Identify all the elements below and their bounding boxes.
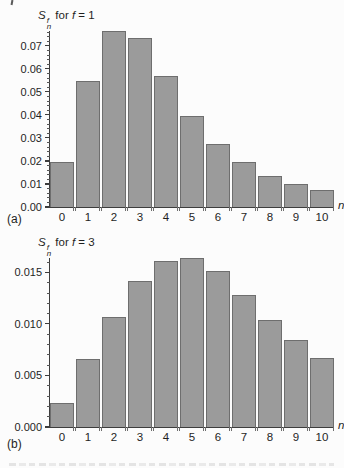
x-tick-label: 8 <box>258 432 282 444</box>
x-tick-label: 4 <box>154 212 178 224</box>
y-minor-tick <box>47 87 50 88</box>
title-text: for <box>52 9 72 21</box>
y-minor-tick <box>47 50 50 51</box>
y-minor-tick <box>47 64 50 65</box>
y-minor-tick <box>47 124 50 125</box>
y-minor-tick <box>47 105 50 106</box>
y-major-tick <box>45 68 50 69</box>
title-sub-sup: fn <box>47 245 51 257</box>
y-minor-tick <box>47 96 50 97</box>
y-minor-tick <box>47 151 50 152</box>
bar-n10 <box>310 358 334 427</box>
y-tick-label: 0.000 <box>14 422 42 433</box>
y-major-tick <box>45 183 50 184</box>
y-tick-label: 0.005 <box>14 370 42 381</box>
bar-n0 <box>50 162 74 207</box>
y-minor-tick <box>47 202 50 203</box>
y-minor-tick <box>47 188 50 189</box>
y-minor-tick <box>47 293 50 294</box>
bar-n3 <box>128 281 152 427</box>
y-tick-label: 0.010 <box>14 318 42 329</box>
x-boundary-tick <box>73 427 76 431</box>
bar-n0 <box>50 403 74 427</box>
y-tick-label: 0.07 <box>21 40 42 51</box>
bar-n2 <box>102 317 126 427</box>
y-minor-tick <box>47 36 50 37</box>
x-boundary-tick <box>151 207 154 211</box>
bar-n9 <box>284 340 308 427</box>
y-minor-tick <box>47 156 50 157</box>
y-minor-tick <box>47 365 50 366</box>
x-boundary-tick <box>229 427 232 431</box>
y-minor-tick <box>47 262 50 263</box>
x-tick-label: 8 <box>258 212 282 224</box>
title-subscript: n <box>47 251 51 257</box>
bar-n4 <box>154 76 178 207</box>
title-value: = 1 <box>75 9 95 21</box>
x-tick-label: 0 <box>50 432 74 444</box>
y-tick-label: 0.03 <box>21 132 42 143</box>
y-minor-tick <box>47 354 50 355</box>
bar-n1 <box>76 81 100 208</box>
x-boundary-tick <box>125 207 128 211</box>
x-boundary-tick <box>307 207 310 211</box>
y-major-tick <box>45 206 50 207</box>
chart-b-x-axis-label: n <box>338 419 344 431</box>
x-boundary-tick <box>229 207 232 211</box>
panel-label-b: (b) <box>7 437 22 451</box>
x-boundary-tick <box>151 427 154 431</box>
bar-n5 <box>180 258 204 427</box>
figure-page: Sfn for f = 1 n 0123456789100.000.010.02… <box>0 0 344 468</box>
y-minor-tick <box>47 385 50 386</box>
x-boundary-tick <box>307 427 310 431</box>
x-end-tick <box>333 427 334 431</box>
x-boundary-tick <box>255 427 258 431</box>
x-tick-label: 3 <box>128 432 152 444</box>
y-minor-tick <box>47 396 50 397</box>
y-minor-tick <box>47 179 50 180</box>
x-boundary-tick <box>177 207 180 211</box>
bar-n9 <box>284 184 308 207</box>
x-boundary-tick <box>255 207 258 211</box>
y-major-tick <box>45 160 50 161</box>
title-value: = 3 <box>75 236 95 248</box>
y-major-tick <box>45 323 50 324</box>
x-end-tick <box>333 207 334 211</box>
y-minor-tick <box>47 303 50 304</box>
page-crop-artifact <box>11 0 14 5</box>
bar-n7 <box>232 295 256 427</box>
x-tick-label: 5 <box>180 212 204 224</box>
x-tick-label: 2 <box>102 432 126 444</box>
y-minor-tick <box>47 334 50 335</box>
x-tick-label: 0 <box>50 212 74 224</box>
y-major-tick <box>45 426 50 427</box>
chart-b-title: Sfn for f = 3 <box>38 236 95 257</box>
x-tick-label: 2 <box>102 212 126 224</box>
x-boundary-tick <box>203 427 206 431</box>
y-major-tick <box>45 375 50 376</box>
x-boundary-tick <box>99 427 102 431</box>
x-tick-label: 9 <box>284 432 308 444</box>
bar-n4 <box>154 261 178 427</box>
bar-n1 <box>76 359 100 427</box>
y-minor-tick <box>47 59 50 60</box>
x-tick-label: 6 <box>206 212 230 224</box>
y-minor-tick <box>47 78 50 79</box>
y-minor-tick <box>47 110 50 111</box>
bar-n2 <box>102 31 126 207</box>
y-minor-tick <box>47 406 50 407</box>
y-minor-tick <box>47 165 50 166</box>
y-major-tick <box>45 272 50 273</box>
x-tick-label: 9 <box>284 212 308 224</box>
y-minor-tick <box>47 193 50 194</box>
title-symbol: S <box>38 9 46 21</box>
y-major-tick <box>45 137 50 138</box>
y-major-tick <box>45 114 50 115</box>
x-boundary-tick <box>281 427 284 431</box>
chart-a-title: Sfn for f = 1 <box>38 9 95 30</box>
y-tick-label: 0.06 <box>21 63 42 74</box>
title-symbol: S <box>38 236 46 248</box>
x-boundary-tick <box>203 207 206 211</box>
x-tick-label: 1 <box>76 212 100 224</box>
bar-n8 <box>258 176 282 207</box>
